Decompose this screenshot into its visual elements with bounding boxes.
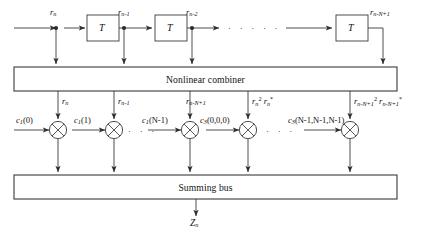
tap-label-rn: rn — [50, 8, 56, 18]
coef-label-c1-0: c1(0) — [16, 116, 33, 126]
delay-line-ellipsis: · · · · · — [228, 23, 281, 33]
tap-label-rn-2-sub: n-2 — [189, 10, 197, 17]
tap-label-rn-sub: n — [53, 10, 56, 17]
multiplier-ellipsis-2: · · · — [266, 126, 296, 136]
nonlinear-combiner-label: Nonlinear combiner — [0, 74, 411, 85]
tap-label-rn-N1: rn-N+1 — [370, 8, 390, 18]
coef-label-c1-1: c1(1) — [74, 116, 91, 126]
delay-block-1-label: T — [99, 22, 105, 33]
multiplier-ellipsis-1: · · · — [128, 126, 158, 136]
filter-block-diagram: T T T rn rn-1 rn-2 rn-N+1 · · · · · Nonl… — [0, 0, 445, 237]
tap-label-rn-1: rn-1 — [118, 8, 130, 18]
branch-input-rn-1: rn-1 — [118, 97, 130, 107]
branch-input-rn: rn — [62, 97, 68, 107]
delay-block-last-label: T — [348, 22, 354, 33]
coef-label-c1-N-1: c1(N-1) — [142, 116, 168, 126]
output-label-sub: n — [195, 221, 198, 228]
branch-input-rn-N1: rn-N+1 — [186, 97, 206, 107]
coef-label-c3-000: c3(0,0,0) — [200, 116, 230, 126]
delay-block-2-label: T — [167, 22, 173, 33]
summing-bus-label: Summing bus — [0, 182, 411, 193]
tap-label-rn-N1-sub: n-N+1 — [373, 10, 390, 17]
tap-label-rn-2: rn-2 — [186, 8, 198, 18]
branch-input-rnN2-rnNstar: rn-N+12 rn-N+1* — [354, 96, 402, 107]
branch-input-rn2-rnstar: rn2 rn* — [252, 96, 273, 107]
output-label: Zn — [190, 219, 198, 229]
tap-label-rn-1-sub: n-1 — [121, 10, 129, 17]
coef-label-c3-NNN: c3(N-1,N-1,N-1) — [288, 116, 344, 126]
